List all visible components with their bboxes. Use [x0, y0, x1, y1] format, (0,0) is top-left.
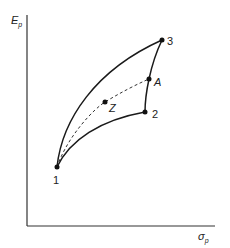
point-2: [143, 110, 148, 115]
y-axis-label: Ep: [11, 14, 22, 29]
label-Z: Z: [108, 102, 117, 114]
point-3: [160, 38, 165, 43]
point-A: [147, 77, 152, 82]
label-A: A: [153, 76, 161, 88]
point-Z: [103, 100, 108, 105]
portfolio-diagram: Ep σp 1 2 3 A Z: [0, 0, 230, 248]
label-3: 3: [167, 35, 173, 47]
label-1: 1: [53, 174, 59, 186]
x-axis-label: σp: [198, 230, 209, 245]
point-1: [55, 165, 60, 170]
curve-1-A-dashed: [57, 79, 149, 167]
label-2: 2: [152, 108, 158, 120]
